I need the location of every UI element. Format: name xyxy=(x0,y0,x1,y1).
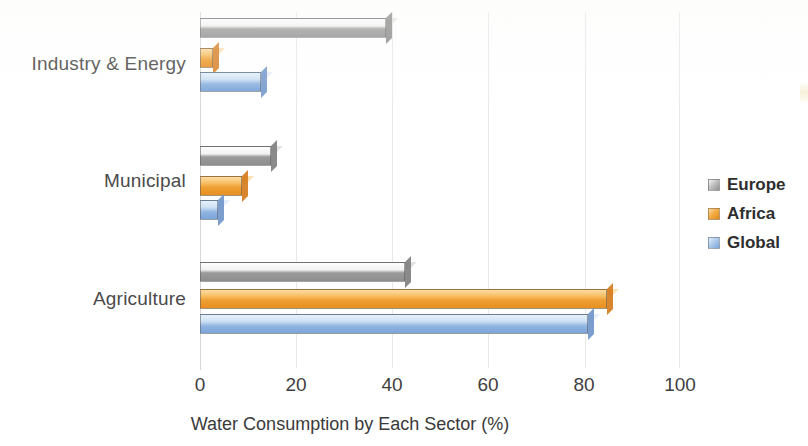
bar-industry-energy-global xyxy=(200,72,267,98)
category-label-municipal: Municipal xyxy=(104,170,186,192)
bar-industry-energy-europe xyxy=(200,18,392,44)
bar-front-face xyxy=(200,289,607,309)
x-tick-0: 0 xyxy=(195,374,206,396)
bar-agriculture-global xyxy=(200,314,594,340)
bar-side-face xyxy=(271,140,277,172)
x-tick-40: 40 xyxy=(381,374,402,396)
bar-side-face xyxy=(242,170,248,202)
bar-municipal-global xyxy=(200,200,224,226)
bar-chart: Industry & EnergyMunicipalAgriculture 02… xyxy=(0,0,808,446)
x-tick-100: 100 xyxy=(664,374,696,396)
bar-front-face xyxy=(200,72,261,92)
x-tick-80: 80 xyxy=(573,374,594,396)
bar-side-face xyxy=(607,283,613,315)
bar-front-face xyxy=(200,176,242,196)
page-edge-artifact xyxy=(800,84,808,102)
legend-item-europe[interactable]: Europe xyxy=(708,170,786,199)
global-swatch-icon xyxy=(708,237,720,249)
bar-front-face xyxy=(200,18,386,38)
legend-label-europe: Europe xyxy=(727,175,786,195)
bar-front-face xyxy=(200,314,588,334)
bar-side-face xyxy=(386,12,392,44)
category-label-industry-energy: Industry & Energy xyxy=(32,53,186,75)
bar-front-face xyxy=(200,262,405,282)
bar-industry-energy-africa xyxy=(200,48,219,74)
europe-swatch-icon xyxy=(708,179,720,191)
legend-label-africa: Africa xyxy=(727,204,775,224)
bar-front-face xyxy=(200,200,218,220)
legend-label-global: Global xyxy=(727,233,780,253)
bar-agriculture-europe xyxy=(200,262,411,288)
x-axis-title: Water Consumption by Each Sector (%) xyxy=(0,414,700,435)
legend: Europe Africa Global xyxy=(708,170,786,257)
bar-agriculture-africa xyxy=(200,289,613,315)
bar-municipal-africa xyxy=(200,176,248,202)
x-tick-20: 20 xyxy=(285,374,306,396)
bar-side-face xyxy=(588,308,594,340)
x-tick-60: 60 xyxy=(477,374,498,396)
gridline-100 xyxy=(679,12,680,368)
bar-side-face xyxy=(218,194,224,226)
legend-item-global[interactable]: Global xyxy=(708,228,786,257)
africa-swatch-icon xyxy=(708,208,720,220)
bar-front-face xyxy=(200,146,271,166)
bar-side-face xyxy=(405,256,411,288)
bar-side-face xyxy=(213,42,219,74)
bar-front-face xyxy=(200,48,213,68)
bar-side-face xyxy=(261,66,267,98)
bar-municipal-europe xyxy=(200,146,277,172)
category-label-agriculture: Agriculture xyxy=(93,288,186,310)
legend-item-africa[interactable]: Africa xyxy=(708,199,786,228)
